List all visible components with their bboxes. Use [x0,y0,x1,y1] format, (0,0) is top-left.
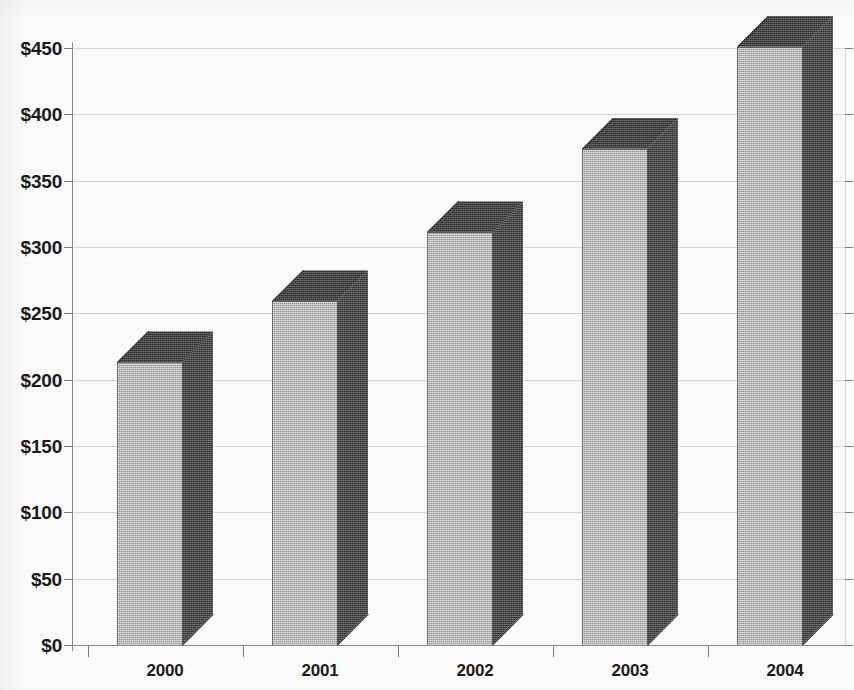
bar-front-face [737,47,802,645]
y-axis-tick-mark-right [845,380,853,381]
x-axis-tick-label: 2003 [570,662,690,679]
x-axis-tick-label: 2004 [725,662,845,679]
bar-side-face [802,16,833,645]
bar-side-face [492,201,523,645]
bar-2001[interactable] [272,270,368,645]
x-axis-tick-mark [88,646,89,657]
y-axis-tick-label: $50 [0,570,62,589]
x-axis-tick-mark [553,646,554,657]
bar-2003[interactable] [582,118,678,645]
bar-front-face [272,301,337,645]
y-axis-tick-mark-right [845,512,853,513]
y-axis-tick-mark [64,446,72,447]
y-axis-tick-label: $450 [0,39,62,58]
gridline [72,48,845,49]
y-axis-tick-mark-right [845,446,853,447]
bar-front-face [582,149,647,645]
y-axis-tick-label: $150 [0,437,62,456]
plot-area [72,48,845,645]
bar-front-face [117,362,182,645]
y-axis-tick-mark [64,380,72,381]
y-axis-tick-mark [64,114,72,115]
y-axis-tick-mark [64,313,72,314]
y-axis-tick-label: $250 [0,304,62,323]
y-axis-tick-label: $0 [0,636,62,655]
y-axis-tick-label: $350 [0,172,62,191]
x-axis-tick-label: 2000 [105,662,225,679]
bar-side-face [337,270,368,645]
y-axis-tick-mark-right [845,114,853,115]
y-axis-tick-labels: $0$50$100$150$200$250$300$350$400$450 [0,48,62,645]
x-axis-line [72,645,845,646]
plot-right-border [845,48,846,645]
gridline [72,114,845,115]
y-axis-tick-mark [64,181,72,182]
y-axis-tick-label: $200 [0,371,62,390]
chart-figure: $0$50$100$150$200$250$300$350$400$450 20… [0,0,854,690]
x-axis-tick-mark [243,646,244,657]
y-axis-tick-label: $300 [0,238,62,257]
y-axis-tick-mark [64,512,72,513]
y-axis-tick-label: $100 [0,503,62,522]
y-axis-tick-mark [64,48,72,49]
x-axis-tick-mark [708,646,709,657]
y-axis-line [72,42,73,651]
bar-side-face [182,331,213,645]
bar-front-face [427,232,492,645]
x-axis-tick-mark [398,646,399,657]
y-axis-tick-mark-right [845,579,853,580]
y-axis-tick-mark-right [845,313,853,314]
gridline [72,181,845,182]
bar-2000[interactable] [117,331,213,645]
y-axis-tick-mark-right [845,645,853,646]
bar-2002[interactable] [427,201,523,645]
y-axis-tick-mark [64,645,72,646]
y-axis-tick-label: $400 [0,105,62,124]
bar-2004[interactable] [737,16,833,645]
x-axis-tick-label: 2001 [260,662,380,679]
y-axis-tick-mark-right [845,48,853,49]
y-axis-tick-mark-right [845,181,853,182]
bar-side-face [647,118,678,645]
y-axis-tick-mark [64,247,72,248]
y-axis-tick-mark-right [845,247,853,248]
y-axis-tick-mark [64,579,72,580]
x-axis-tick-label: 2002 [415,662,535,679]
